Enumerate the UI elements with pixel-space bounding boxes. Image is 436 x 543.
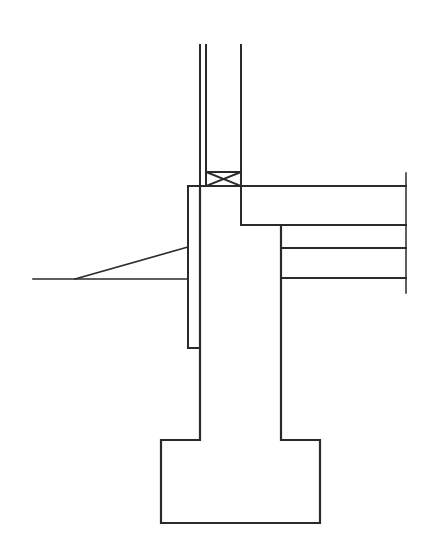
floor-framing bbox=[188, 173, 406, 293]
section-svg bbox=[0, 0, 436, 543]
sill-plate bbox=[206, 172, 241, 186]
grade-slope bbox=[75, 247, 188, 279]
skirt-board bbox=[188, 186, 200, 348]
joist-outline bbox=[241, 186, 406, 225]
foundation-wall-outline bbox=[161, 186, 320, 523]
wall-framing bbox=[200, 45, 241, 186]
section-drawing bbox=[0, 0, 436, 543]
foundation bbox=[161, 186, 320, 523]
grade-line bbox=[33, 247, 188, 279]
